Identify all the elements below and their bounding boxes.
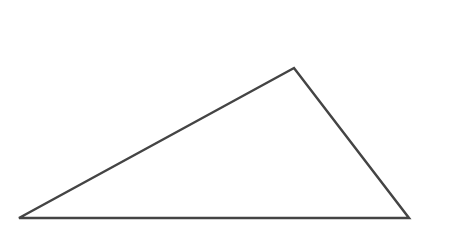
diagram-canvas <box>0 0 461 236</box>
triangle-diagram <box>0 0 461 236</box>
triangle <box>19 68 409 218</box>
